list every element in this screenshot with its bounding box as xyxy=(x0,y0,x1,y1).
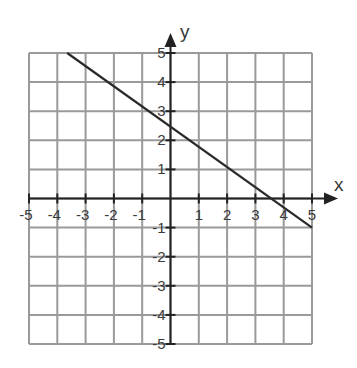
coordinate-plane-chart: -5-4-3-2-11234554321-1-2-3-4-5 x y xyxy=(0,0,357,368)
axes xyxy=(29,33,338,344)
y-tick-label: 4 xyxy=(157,73,165,90)
y-tick-label: -1 xyxy=(152,219,165,236)
y-axis-label: y xyxy=(180,21,190,42)
x-tick-label: -5 xyxy=(19,206,32,223)
x-tick-label: 2 xyxy=(223,206,231,223)
y-tick-label: 5 xyxy=(157,44,165,61)
y-tick-label: -5 xyxy=(152,335,165,352)
y-tick-label: 1 xyxy=(157,160,165,177)
y-axis-arrow-icon xyxy=(165,33,177,47)
x-tick-label: 3 xyxy=(251,206,259,223)
x-tick-label: 1 xyxy=(195,206,203,223)
x-tick-label: -3 xyxy=(76,206,89,223)
y-tick-label: 3 xyxy=(157,102,165,119)
y-tick-label: -4 xyxy=(152,306,165,323)
x-axis-label: x xyxy=(334,174,344,195)
y-tick-label: 2 xyxy=(157,131,165,148)
x-tick-label: -2 xyxy=(104,206,117,223)
x-tick-label: -1 xyxy=(133,206,146,223)
y-tick-label: -3 xyxy=(152,277,165,294)
x-tick-label: 5 xyxy=(308,206,316,223)
y-tick-label: -2 xyxy=(152,248,165,265)
x-tick-label: -4 xyxy=(48,206,61,223)
